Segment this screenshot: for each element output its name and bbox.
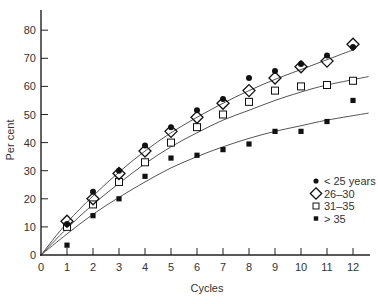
filled-square-marker: [272, 129, 277, 134]
filled-square-marker: [246, 141, 251, 146]
filled-square-marker: [298, 129, 303, 134]
x-tick-label: 1: [64, 261, 70, 273]
y-tick-label: 80: [24, 24, 36, 36]
filled-circle-marker: [168, 124, 174, 130]
x-tick-label: 9: [272, 261, 278, 273]
filled-square-marker: [350, 98, 355, 103]
legend-item: 26–30: [310, 188, 354, 200]
fit-curve: [41, 50, 353, 255]
filled-circle-marker: [298, 61, 304, 67]
legend-label: < 25 years: [324, 175, 376, 187]
open-square-marker: [324, 81, 331, 88]
open-square-marker: [142, 159, 149, 166]
open-square-marker: [168, 139, 175, 146]
open-square-marker: [246, 98, 253, 105]
filled-circle-marker: [246, 75, 252, 81]
filled-square-marker: [194, 153, 199, 158]
y-tick-label: 0: [30, 249, 36, 261]
series-1: [61, 38, 359, 227]
filled-circle-marker: [313, 178, 318, 183]
filled-square-marker: [168, 155, 173, 160]
open-square-marker: [272, 87, 279, 94]
filled-circle-marker: [220, 96, 226, 102]
y-tick-label: 60: [24, 80, 36, 92]
open-square-marker: [350, 77, 357, 84]
open-square-marker: [313, 203, 319, 209]
y-tick-label: 20: [24, 193, 36, 205]
x-tick-label: 2: [90, 261, 96, 273]
filled-circle-marker: [64, 221, 70, 227]
legend-item: < 25 years: [313, 175, 376, 187]
x-tick-label: 4: [142, 261, 148, 273]
legend-label: 26–30: [324, 188, 355, 200]
filled-square-marker: [220, 147, 225, 152]
chart: 0123456789101112 01020304050607080 Cycle…: [0, 0, 378, 304]
filled-circle-marker: [194, 107, 200, 113]
legend-label: 31–35: [324, 200, 355, 212]
axes: [40, 10, 370, 256]
fit-curve: [41, 77, 369, 255]
filled-square-marker: [142, 174, 147, 179]
legend-item: 31–35: [313, 200, 355, 212]
open-square-marker: [298, 83, 305, 90]
filled-square-marker: [324, 119, 329, 124]
y-tick-label: 10: [24, 221, 36, 233]
x-tick-label: 10: [295, 261, 307, 273]
open-square-marker: [194, 124, 201, 131]
filled-square-marker: [116, 196, 121, 201]
x-tick-label: 8: [246, 261, 252, 273]
fitted-curves: [41, 50, 369, 255]
y-ticks: 01020304050607080: [24, 24, 48, 261]
filled-square-marker: [314, 216, 318, 220]
x-tick-label: 11: [321, 261, 332, 273]
fit-curve: [41, 113, 369, 255]
x-tick-label: 12: [347, 261, 359, 273]
open-diamond-marker: [310, 188, 321, 199]
open-square-marker: [220, 111, 227, 118]
x-tick-label: 0: [38, 261, 44, 273]
series-0: [64, 44, 356, 227]
x-tick-label: 6: [194, 261, 200, 273]
filled-circle-marker: [116, 168, 122, 174]
y-tick-label: 70: [24, 52, 36, 64]
legend-item: > 35: [314, 213, 346, 225]
filled-circle-marker: [272, 68, 278, 74]
filled-circle-marker: [324, 52, 330, 58]
x-axis-title: Cycles: [190, 282, 224, 294]
filled-square-marker: [64, 243, 69, 248]
filled-square-marker: [90, 213, 95, 218]
y-tick-label: 50: [24, 109, 36, 121]
legend-label: > 35: [324, 213, 346, 225]
x-tick-label: 7: [220, 261, 226, 273]
y-tick-label: 30: [24, 165, 36, 177]
x-tick-label: 5: [168, 261, 174, 273]
series-3: [64, 98, 355, 248]
y-axis-title: Per cent: [4, 120, 16, 161]
filled-circle-marker: [142, 142, 148, 148]
y-tick-label: 40: [24, 137, 36, 149]
filled-circle-marker: [90, 189, 96, 195]
x-tick-label: 3: [116, 261, 122, 273]
x-ticks: 0123456789101112: [38, 248, 359, 273]
legend: < 25 years26–3031–35> 35: [310, 175, 376, 225]
filled-circle-marker: [350, 44, 356, 50]
